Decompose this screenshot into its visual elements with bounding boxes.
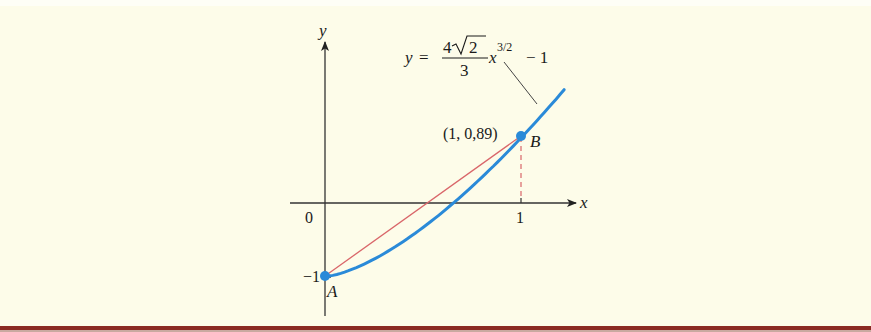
equation-denominator: 3 <box>460 61 469 80</box>
point-b-coord-label: (1, 0,89) <box>443 125 498 143</box>
equation-variable: x <box>488 48 497 67</box>
equation-equals: = <box>419 48 429 67</box>
x-tick-label-1: 1 <box>516 209 524 226</box>
y-axis-label: y <box>317 21 327 40</box>
x-axis-label: x <box>579 193 588 212</box>
equation-tail: − 1 <box>526 48 548 67</box>
equation-lhs-y: y <box>403 48 413 67</box>
equation-leader-line <box>504 62 537 104</box>
equation-exponent: 3/2 <box>497 40 512 54</box>
point-b <box>516 131 526 141</box>
equation-radicand: 2 <box>469 38 478 57</box>
curve-equation: y = 4 2 3 x 3/2 − 1 <box>403 36 548 80</box>
y-tick-label-minus1: −1 <box>303 268 320 285</box>
equation-numerator-coeff: 4 <box>443 38 452 57</box>
point-a-label: A <box>326 282 338 301</box>
curve-line <box>325 90 564 277</box>
chord-ab <box>325 136 521 276</box>
point-b-label: B <box>530 132 541 151</box>
origin-label: 0 <box>305 209 313 226</box>
point-a <box>320 271 330 281</box>
arc-length-figure: (function(){ var pts = []; var k = 4*Mat… <box>0 0 871 332</box>
